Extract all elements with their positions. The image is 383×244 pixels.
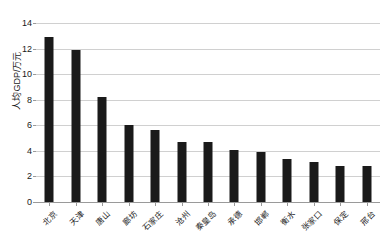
x-tick-mark [155,203,156,206]
y-tick-label: 14 [6,18,32,28]
x-tick-mark [340,203,341,206]
y-tick-label: 12 [6,44,32,54]
bar-slot [274,23,300,202]
bar[interactable] [45,37,54,202]
y-tick-label: 4 [6,146,32,156]
bar-slot [301,23,327,202]
bar[interactable] [362,166,371,202]
x-tick-mark [367,203,368,206]
plot-area [36,23,380,202]
y-tick-label: 8 [6,95,32,105]
x-tick-mark [129,203,130,206]
x-tick-mark [182,203,183,206]
bar[interactable] [256,152,265,202]
x-axis-labels: 北京天津唐山廊坊石家庄沧州秦皇岛承德邯郸衡水张家口保定邢台 [36,203,380,244]
x-tick-mark [102,203,103,206]
bar[interactable] [283,159,292,202]
bar[interactable] [151,130,160,202]
x-tick-mark [261,203,262,206]
bar[interactable] [336,166,345,202]
bar-slot [142,23,168,202]
bar[interactable] [203,142,212,202]
bar[interactable] [177,142,186,202]
bar-slot [327,23,353,202]
x-tick-mark [208,203,209,206]
bar-slot [115,23,141,202]
bar-slot [248,23,274,202]
bar[interactable] [98,97,107,202]
bar-slot [354,23,380,202]
x-tick-mark [287,203,288,206]
bar[interactable] [230,150,239,202]
bar-slot [62,23,88,202]
x-tick-mark [49,203,50,206]
bar-slot [221,23,247,202]
bars-layer [36,23,380,202]
bar-slot [89,23,115,202]
x-tick-mark [76,203,77,206]
bar-slot [195,23,221,202]
bar[interactable] [309,162,318,202]
bar-slot [36,23,62,202]
bar[interactable] [124,125,133,202]
x-tick-mark [234,203,235,206]
y-tick-label: 2 [6,171,32,181]
y-axis-ticks: 02468101214 [0,23,32,202]
bar[interactable] [71,50,80,202]
bar-chart: 人均GDP/万元 02468101214 北京天津唐山廊坊石家庄沧州秦皇岛承德邯… [0,0,383,244]
y-tick-label: 0 [6,197,32,207]
bar-slot [168,23,194,202]
x-tick-mark [314,203,315,206]
y-tick-label: 6 [6,120,32,130]
y-tick-label: 10 [6,69,32,79]
